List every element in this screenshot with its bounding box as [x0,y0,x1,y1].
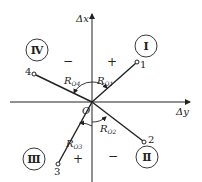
point-2-label: 2 [148,134,154,145]
svg-text:Ⅳ: Ⅳ [31,44,44,57]
quadrant-iii-badge: Ⅲ [23,148,45,170]
svg-text:Ⅱ: Ⅱ [142,151,151,164]
point-3-label: 3 [54,166,60,177]
point-1-marker [135,60,139,64]
quadrant-iii-sign: + [73,152,83,166]
quadrant-iv-sign: − [63,54,73,68]
quadrant-ii-badge: Ⅱ [136,146,158,168]
angle-arc-o2 [92,117,106,122]
point-1-label: 1 [140,59,146,70]
vertical-axis-label: Δx [75,13,89,24]
svg-text:Ⅲ: Ⅲ [27,153,40,166]
angle-label-o2: RO2 [99,123,116,135]
angle-label-o3: RO3 [65,138,82,150]
quadrant-i-badge: Ⅰ [135,35,157,57]
angle-label-o1: RO1 [96,75,113,87]
svg-text:Ⅰ: Ⅰ [143,40,148,53]
quadrant-ii-sign: − [108,149,118,163]
angle-arc-o3 [80,123,92,126]
quadrant-i-sign: + [107,55,117,69]
point-2-marker [142,140,146,144]
horizontal-axis-label: Δy [175,106,189,117]
line-to-point-4 [32,72,92,102]
point-4-marker [32,72,36,76]
quadrant-iv-badge: Ⅳ [26,39,48,61]
angle-label-o4: RO4 [63,75,80,87]
point-4-label: 4 [25,66,31,77]
coordinate-diagram: Δx Δy O 1 2 3 4 RO4 [0,0,202,182]
